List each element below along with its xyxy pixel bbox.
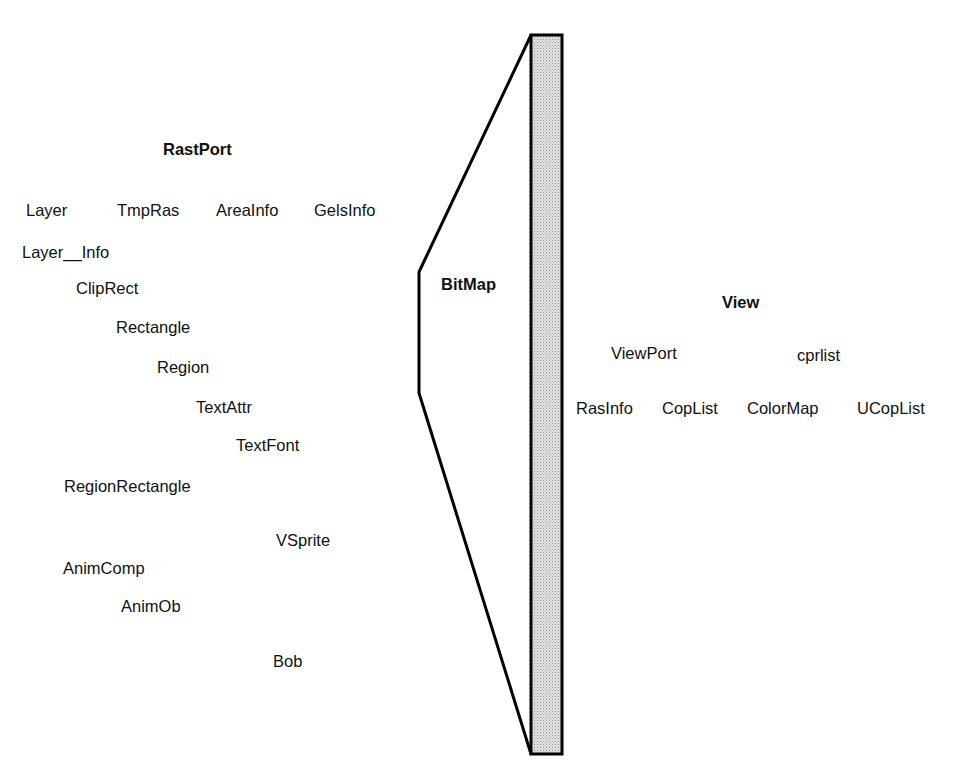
label-textfont: TextFont xyxy=(236,435,299,455)
label-animcomp: AnimComp xyxy=(63,558,145,578)
label-layer: Layer xyxy=(26,200,67,220)
label-rectangle: Rectangle xyxy=(116,317,190,337)
label-regionrectangle: RegionRectangle xyxy=(64,476,191,496)
view-title: View xyxy=(722,292,759,312)
bitmap-title: BitMap xyxy=(441,274,496,294)
label-gelsinfo: GelsInfo xyxy=(314,200,375,220)
label-rasinfo: RasInfo xyxy=(576,398,633,418)
label-textattr: TextAttr xyxy=(196,397,252,417)
label-animob: AnimOb xyxy=(121,596,181,616)
label-bob: Bob xyxy=(273,651,302,671)
label-cprlist: cprlist xyxy=(797,345,840,365)
label-colormap: ColorMap xyxy=(747,398,819,418)
label-vsprite: VSprite xyxy=(276,530,330,550)
label-layer-info: Layer__Info xyxy=(22,242,109,262)
rastport-title: RastPort xyxy=(163,139,232,159)
label-areainfo: AreaInfo xyxy=(216,200,278,220)
label-viewport: ViewPort xyxy=(611,343,677,363)
label-tmpras: TmpRas xyxy=(117,200,179,220)
label-cliprect: ClipRect xyxy=(76,278,138,298)
label-region: Region xyxy=(157,357,209,377)
bitmap-bar xyxy=(531,35,562,754)
bitmap-outline xyxy=(419,35,531,754)
bitmap-shape xyxy=(0,0,977,777)
label-coplist: CopList xyxy=(662,398,718,418)
label-ucoplist: UCopList xyxy=(857,398,925,418)
